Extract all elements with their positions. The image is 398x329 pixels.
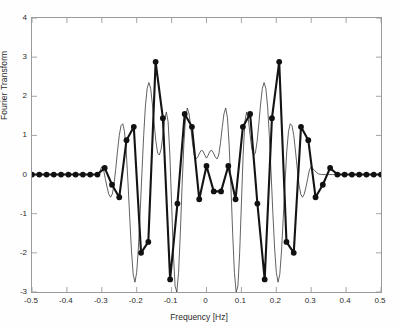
x-tick-label: -0.2 [129,296,143,305]
data-point-marker [145,239,151,245]
data-point-marker [95,172,101,178]
data-point-marker [211,189,217,195]
data-point-marker [371,172,377,178]
data-point-marker [182,111,188,117]
y-tick-label: -1 [8,208,27,217]
data-point-marker [378,172,381,178]
x-axis-label: Frequency [Hz] [0,312,398,322]
data-point-marker [44,172,50,178]
x-tick-label: -0.4 [59,296,73,305]
data-point-marker [36,172,42,178]
x-tick-label: 0.3 [305,296,316,305]
data-point-marker [73,172,79,178]
data-point-marker [58,172,64,178]
data-point-marker [298,124,304,130]
data-point-marker [196,196,202,202]
y-tick-label: 3 [8,52,27,61]
data-point-marker [65,172,71,178]
data-point-marker [153,59,159,65]
data-point-marker [175,201,181,207]
sampled-transform-curve [32,62,381,280]
plot-area [31,17,382,293]
data-point-marker [284,239,290,245]
y-tick-label: 4 [8,13,27,22]
data-point-marker [138,250,144,256]
data-point-marker [320,182,326,188]
x-tick-label: 0.5 [374,296,385,305]
data-point-marker [269,115,275,121]
data-point-marker [262,277,268,283]
x-tick-label: -0.5 [24,296,38,305]
y-tick-label: 0 [8,169,27,178]
data-point-marker [327,165,333,171]
data-point-marker [160,115,166,121]
data-point-marker [225,163,231,169]
data-point-marker [51,172,57,178]
data-point-marker [291,250,297,256]
data-point-marker [356,172,362,178]
tick-marks-group [32,18,381,292]
data-point-marker [32,172,35,178]
data-point-marker [240,124,246,130]
data-point-marker [131,124,137,130]
data-point-marker [204,163,210,169]
data-point-marker [276,59,282,65]
data-point-marker [254,201,260,207]
data-point-marker [364,172,370,178]
data-point-marker [334,172,340,178]
y-tick-label: 1 [8,130,27,139]
x-tick-label: 0.4 [340,296,351,305]
x-tick-label: -0.3 [94,296,108,305]
data-point-marker [87,172,93,178]
y-tick-label: -2 [8,247,27,256]
data-point-marker [233,196,239,202]
data-point-marker [313,194,319,200]
x-tick-label: 0.2 [270,296,281,305]
data-point-marker [218,189,224,195]
continuous-transform-curve [32,83,381,292]
data-point-marker [109,182,115,188]
data-point-marker [102,165,108,171]
x-tick-label: 0 [203,296,207,305]
figure-canvas: Fourier Transform Frequency [Hz] -0.5-0.… [0,0,398,329]
data-point-marker [342,172,348,178]
data-point-marker [247,111,253,117]
data-point-marker [124,137,130,143]
x-tick-label: 0.1 [235,296,246,305]
data-point-marker [116,194,122,200]
x-tick-label: -0.1 [164,296,178,305]
data-point-marker [305,137,311,143]
y-tick-label: 2 [8,91,27,100]
y-tick-label: -3 [8,287,27,296]
data-point-marker [80,172,86,178]
data-point-marker [349,172,355,178]
chart-svg [32,18,381,292]
data-point-marker [189,124,195,130]
data-point-marker [167,277,173,283]
